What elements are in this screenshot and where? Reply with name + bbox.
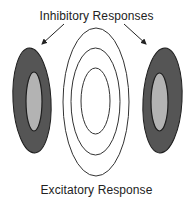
excitatory-ring-inner <box>81 68 110 134</box>
left-inhibitory-zone <box>10 47 53 154</box>
receptive-field-diagram: Inhibitory Responses Excitatory Response <box>0 0 193 202</box>
right-arrow <box>124 24 146 44</box>
left-inhibitory-inner <box>26 72 42 131</box>
left-arrow <box>42 24 64 44</box>
excitatory-response-label: Excitatory Response <box>0 183 193 197</box>
excitatory-center <box>63 28 129 176</box>
inhibitory-responses-label: Inhibitory Responses <box>0 9 193 23</box>
right-inhibitory-zone <box>140 47 184 154</box>
diagram-canvas <box>0 0 193 202</box>
excitatory-ring-outer <box>63 28 129 176</box>
right-inhibitory-inner <box>151 73 168 131</box>
excitatory-ring-middle <box>71 48 120 155</box>
